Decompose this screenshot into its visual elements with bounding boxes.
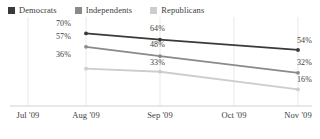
line-chart: Democrats Independents Republicans 70% 6… xyxy=(0,0,320,139)
data-label-republicans-2: 33% xyxy=(150,59,165,67)
data-label-republicans-3: 16% xyxy=(297,76,312,84)
data-point-independents-0[interactable] xyxy=(84,45,88,49)
x-tick-label-aug: Aug '09 xyxy=(72,110,100,120)
series-lines xyxy=(84,31,300,91)
data-point-republicans-1[interactable] xyxy=(158,70,162,74)
data-point-republicans-0[interactable] xyxy=(84,67,88,71)
legend-item-independents[interactable]: Independents xyxy=(75,6,133,15)
series-line-democrats[interactable] xyxy=(86,33,298,50)
data-label-democrats-3: 54% xyxy=(297,37,312,45)
data-label-democrats-1: 70% xyxy=(56,20,71,28)
legend-item-label: Democrats xyxy=(19,6,57,15)
square-swatch-icon xyxy=(75,7,82,14)
legend-item-label: Republicans xyxy=(161,6,204,15)
chart-legend: Democrats Independents Republicans xyxy=(8,3,312,17)
data-label-republicans-1: 36% xyxy=(56,51,71,59)
data-label-independents-1: 57% xyxy=(56,33,71,41)
data-label-independents-2: 48% xyxy=(150,41,165,49)
series-line-independents[interactable] xyxy=(86,47,298,73)
x-axis-labels: Jul '09 Aug '09 Sep '09 Oct '09 Nov '09 xyxy=(0,110,320,130)
square-swatch-icon xyxy=(8,7,15,14)
x-tick-label-nov: Nov '09 xyxy=(284,110,312,120)
x-tick-label-jul: Jul '09 xyxy=(17,110,40,120)
series-line-republicans[interactable] xyxy=(86,69,298,90)
data-point-democrats-0[interactable] xyxy=(84,31,88,35)
plot-area: 70% 64% 54% 57% 48% 32% 36% 33% 16% xyxy=(0,17,320,112)
data-point-republicans-2[interactable] xyxy=(296,88,300,92)
x-tick-label-oct: Oct '09 xyxy=(221,110,246,120)
square-swatch-icon xyxy=(150,7,157,14)
x-tick-label-sep: Sep '09 xyxy=(147,110,173,120)
data-label-democrats-2: 64% xyxy=(150,25,165,33)
data-label-independents-3: 32% xyxy=(297,59,312,67)
data-point-democrats-2[interactable] xyxy=(296,48,300,52)
legend-item-democrats[interactable]: Democrats xyxy=(8,6,57,15)
legend-item-label: Independents xyxy=(86,6,133,15)
legend-item-republicans[interactable]: Republicans xyxy=(150,6,204,15)
